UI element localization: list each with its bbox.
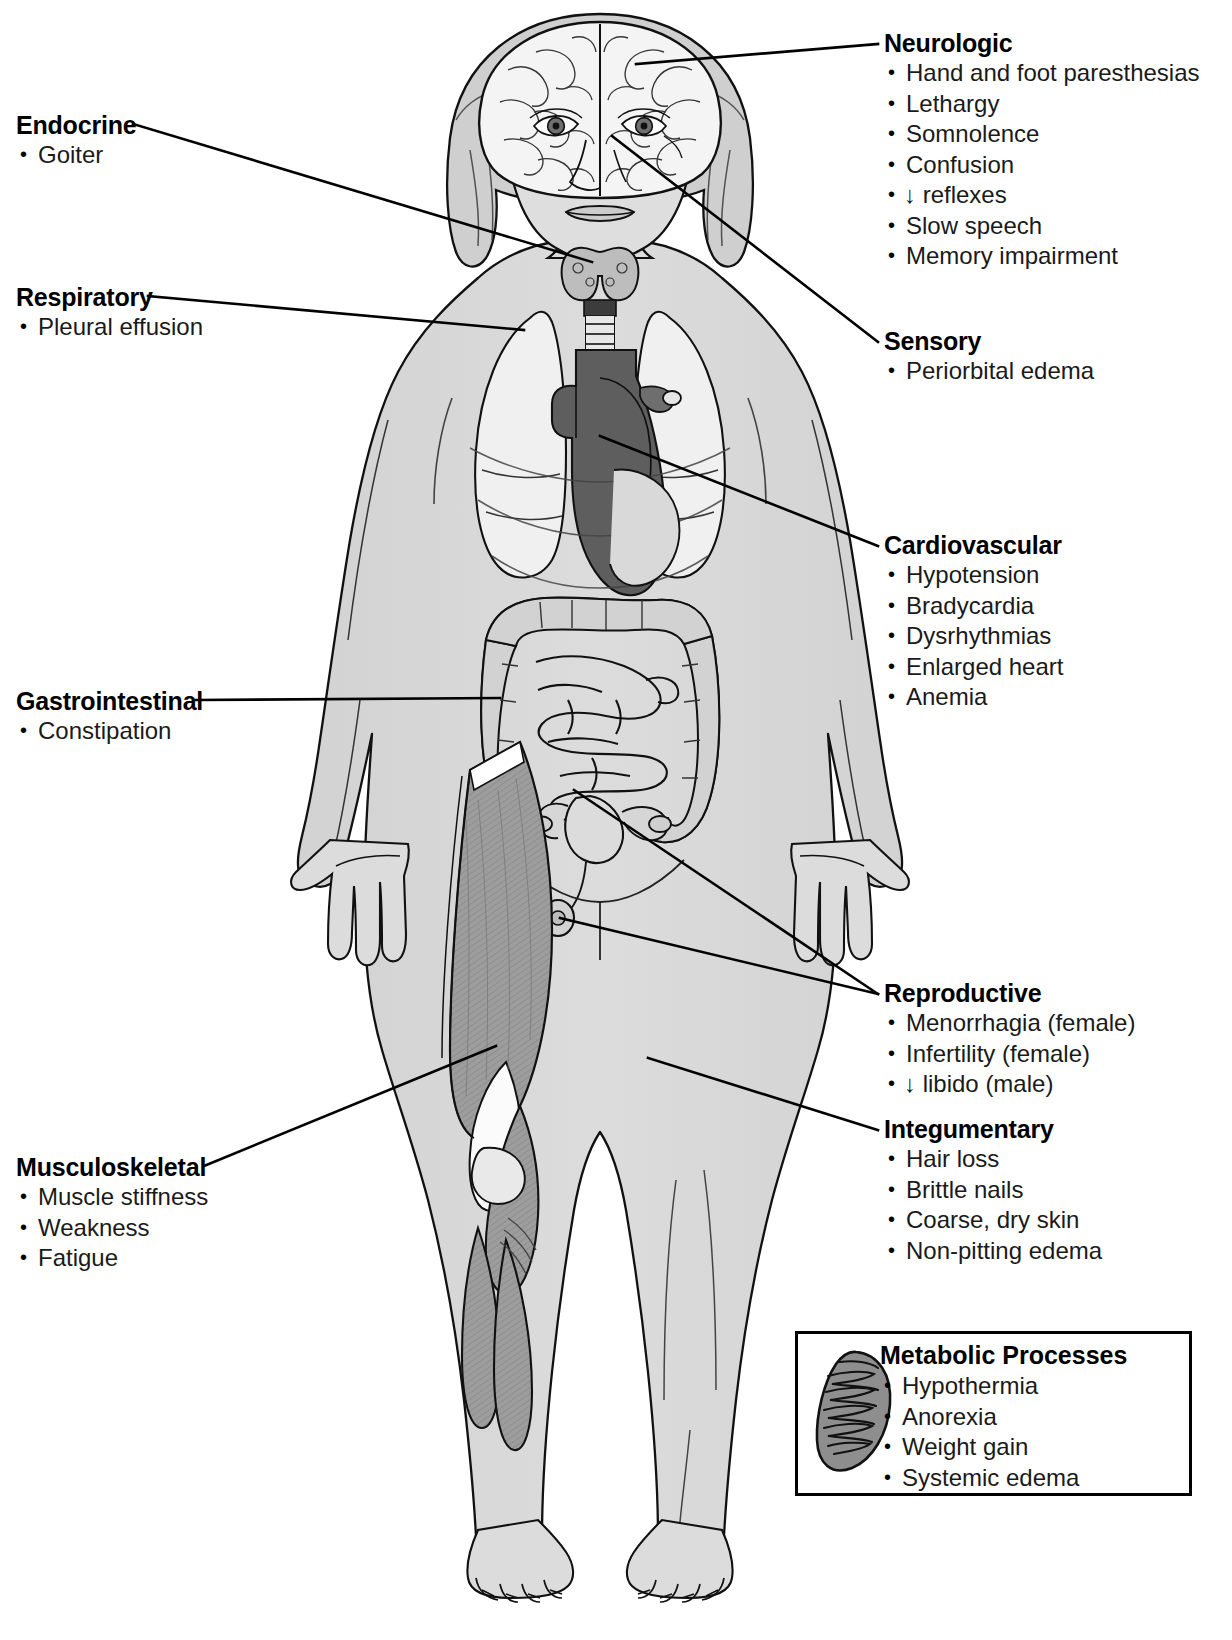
list-item: Systemic edema [880, 1463, 1127, 1494]
metabolic-list: Hypothermia Anorexia Weight gain Systemi… [880, 1371, 1127, 1493]
metabolic-processes-text: Metabolic Processes Hypothermia Anorexia… [880, 1340, 1127, 1493]
list-item: Hypothermia [880, 1371, 1127, 1402]
list-item: Weight gain [880, 1432, 1127, 1463]
metabolic-title: Metabolic Processes [880, 1340, 1127, 1371]
list-item: Anorexia [880, 1402, 1127, 1433]
diagram-canvas: Endocrine Goiter Respiratory Pleural eff… [0, 0, 1232, 1640]
